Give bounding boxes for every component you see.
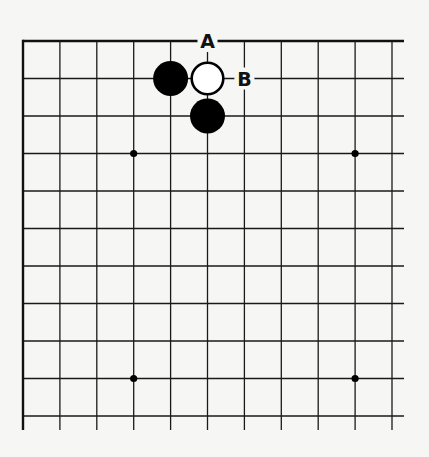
star-point	[130, 150, 137, 157]
black-stone[interactable]	[190, 99, 225, 134]
point-label-b: B	[237, 68, 251, 90]
stones-layer	[153, 61, 225, 134]
white-stone[interactable]	[192, 63, 224, 95]
black-stone[interactable]	[153, 61, 188, 96]
star-point	[130, 375, 137, 382]
star-point	[352, 375, 359, 382]
board-grid	[23, 40, 404, 430]
star-point	[352, 150, 359, 157]
go-board-diagram: AB	[0, 0, 429, 457]
point-label-a: A	[200, 30, 215, 52]
